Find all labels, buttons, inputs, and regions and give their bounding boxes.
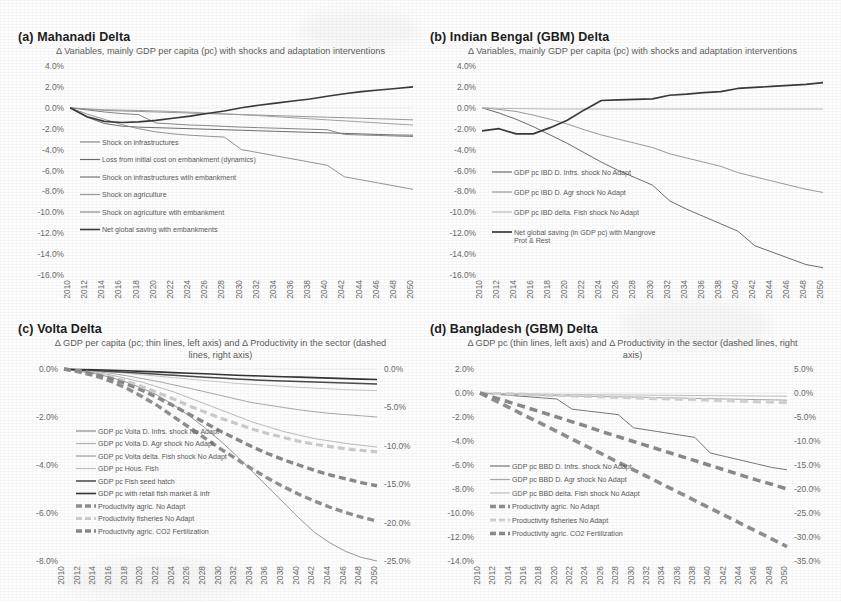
legend-label: GDP pc with retail fish market & infr: [98, 490, 210, 498]
y-tick-label: 2.0%: [45, 81, 65, 91]
x-tick-label: 2016: [103, 566, 113, 585]
y-tick-label: 2.0%: [457, 81, 477, 91]
panel-d-title: (d) Bangladesh (GBM) Delta: [430, 322, 835, 336]
y-tick-label: -12.0%: [449, 228, 476, 238]
series-line: [482, 107, 823, 192]
x-tick-label: 2038: [713, 279, 723, 298]
legend-label: GDP pc BBD D. Infrs. shock No Adapt: [512, 463, 632, 471]
x-tick-label: 2042: [336, 279, 346, 298]
x-tick-label: 2046: [338, 566, 348, 585]
x-tick-label: 2014: [96, 279, 106, 298]
x-tick-label: 2030: [626, 566, 636, 585]
x-tick-label: 2022: [150, 566, 160, 585]
y-tick-label: 0.0%: [39, 364, 59, 374]
y-tick-label-right: -10.0%: [384, 441, 411, 451]
series-line: [480, 393, 787, 403]
legend-label: Productivity fisheries No Adapt: [512, 517, 608, 525]
y-tick-label: -12.0%: [37, 228, 64, 238]
y-tick-label: -16.0%: [449, 270, 476, 280]
legend-label: Net global saving with embankments: [102, 226, 218, 234]
legend-label: GDP pc IBD D. Infrs. shock No Adapt: [514, 168, 631, 176]
y-tick-label: -6.0%: [42, 165, 64, 175]
legend-label: GDP pc Hous. Fish: [98, 465, 159, 473]
legend-label: Productivity agric. CO2 Fertilization: [98, 528, 209, 536]
series-line: [480, 393, 787, 489]
y-tick-label-right: -5.0%: [794, 412, 816, 422]
y-tick-label-right: -20.0%: [384, 518, 411, 528]
x-tick-label: 2026: [199, 279, 209, 298]
x-tick-label: 2032: [641, 566, 651, 585]
panel-a-chart: 4.0%2.0%0.0%-2.0%-4.0%-6.0%-8.0%-10.0%-1…: [18, 60, 423, 315]
legend-label: Shock on agriculture: [102, 191, 167, 199]
x-tick-label: 2014: [503, 566, 513, 585]
y-tick-label: 4.0%: [457, 61, 477, 71]
x-tick-label: 2042: [747, 279, 757, 298]
y-tick-label: -4.0%: [452, 436, 474, 446]
panel-b-chart: 4.0%2.0%0.0%-2.0%-4.0%-6.0%-8.0%-10.0%-1…: [430, 60, 835, 315]
legend-label: GDP pc BBD D. Agr shock No Adapt: [512, 476, 627, 484]
x-tick-label: 2042: [306, 566, 316, 585]
y-tick-label-right: 0.0%: [384, 364, 404, 374]
panel-c: (c) Volta Delta Δ GDP per capita (pc; th…: [18, 322, 423, 600]
panel-c-chart: 0.0%-2.0%-4.0%-6.0%-8.0%0.0%-5.0%-10.0%-…: [18, 363, 423, 603]
panel-b: (b) Indian Bengal (GBM) Delta Δ Variable…: [430, 30, 835, 320]
y-tick-label: -2.0%: [452, 412, 474, 422]
legend-label: GDP pc IBD D. Agr shock No Adapt: [514, 188, 626, 196]
panel-b-title: (b) Indian Bengal (GBM) Delta: [430, 30, 835, 44]
x-tick-label: 2012: [79, 279, 89, 298]
x-tick-label: 2050: [369, 566, 379, 585]
x-tick-label: 2038: [302, 279, 312, 298]
y-tick-label: 0.0%: [455, 388, 475, 398]
x-tick-label: 2042: [718, 566, 728, 585]
x-tick-label: 2016: [525, 279, 535, 298]
x-tick-label: 2016: [518, 566, 528, 585]
panel-a: (a) Mahanadi Delta Δ Variables, mainly G…: [18, 30, 423, 320]
y-tick-label-right: -25.0%: [384, 556, 411, 566]
x-tick-label: 2036: [259, 566, 269, 585]
x-tick-label: 2036: [696, 279, 706, 298]
y-tick-label: -8.0%: [36, 556, 58, 566]
x-tick-label: 2032: [662, 279, 672, 298]
x-tick-label: 2026: [595, 566, 605, 585]
x-tick-label: 2034: [244, 566, 254, 585]
x-tick-label: 2040: [730, 279, 740, 298]
x-tick-label: 2044: [733, 566, 743, 585]
x-tick-label: 2020: [549, 566, 559, 585]
x-tick-label: 2012: [72, 566, 82, 585]
x-tick-label: 2030: [234, 279, 244, 298]
legend-label: GDP pc BBD delta. Fish shock No Adapt: [512, 490, 640, 498]
y-tick-label: -6.0%: [454, 165, 476, 175]
x-tick-label: 2028: [197, 566, 207, 585]
y-tick-label: -6.0%: [452, 460, 474, 470]
x-tick-label: 2050: [405, 279, 415, 298]
y-tick-label: -4.0%: [454, 144, 476, 154]
x-tick-label: 2016: [113, 279, 123, 298]
x-tick-label: 2010: [62, 279, 72, 298]
x-tick-label: 2040: [319, 279, 329, 298]
x-tick-label: 2010: [474, 279, 484, 298]
y-tick-label: -14.0%: [447, 556, 474, 566]
y-tick-label-right: -15.0%: [794, 460, 821, 470]
y-tick-label: -14.0%: [37, 249, 64, 259]
panel-a-title: (a) Mahanadi Delta: [18, 30, 423, 44]
y-tick-label: -12.0%: [447, 532, 474, 542]
x-tick-label: 2014: [87, 566, 97, 585]
panel-d-chart: 2.0%0.0%-2.0%-4.0%-6.0%-8.0%-10.0%-12.0%…: [430, 363, 835, 603]
x-tick-label: 2026: [610, 279, 620, 298]
series-line: [480, 393, 787, 470]
panel-a-subtitle: Δ Variables, mainly GDP per capita (pc) …: [50, 46, 390, 58]
x-tick-label: 2040: [291, 566, 301, 585]
legend-label: Prot & Rest: [514, 236, 550, 244]
x-tick-label: 2050: [779, 566, 789, 585]
y-tick-label: -4.0%: [36, 460, 58, 470]
x-tick-label: 2010: [472, 566, 482, 585]
y-tick-label-right: -10.0%: [794, 436, 821, 446]
y-tick-label: -8.0%: [42, 186, 64, 196]
x-tick-label: 2032: [251, 279, 261, 298]
legend-label: GDP pc Fish seed hatch: [98, 478, 175, 486]
x-tick-label: 2038: [687, 566, 697, 585]
x-tick-label: 2030: [645, 279, 655, 298]
x-tick-label: 2020: [559, 279, 569, 298]
x-tick-label: 2028: [610, 566, 620, 585]
